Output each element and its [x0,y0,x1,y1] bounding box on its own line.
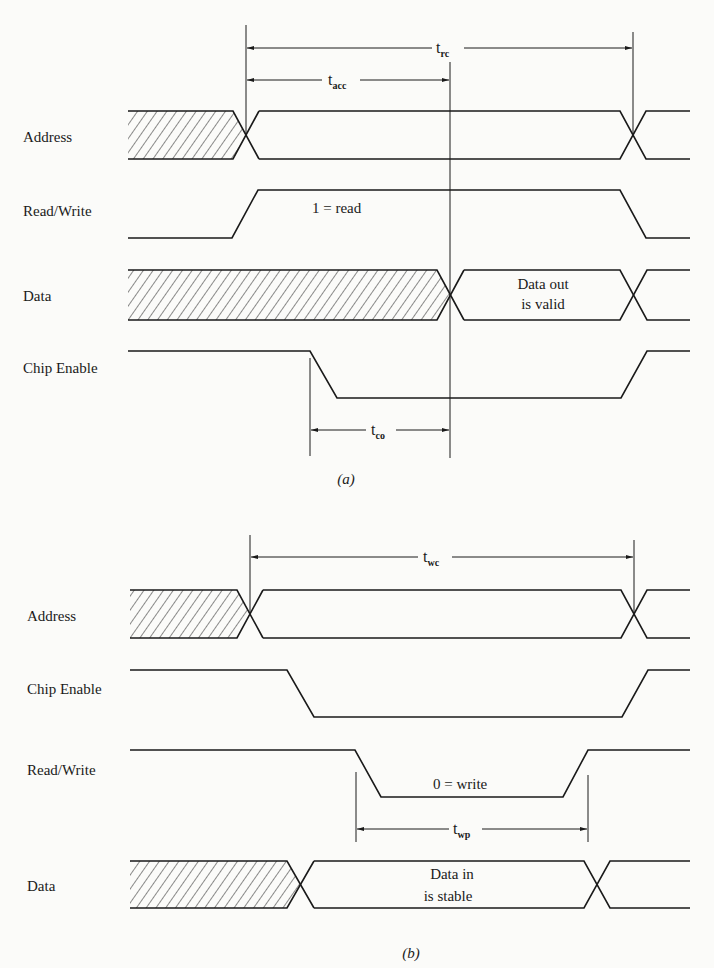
caption-a: (a) [337,471,355,488]
part-b-write-cycle: Address Chip Enable Read/Write Data 0 = … [27,535,690,962]
signal-label-chip-enable-b: Chip Enable [27,681,102,697]
caption-b: (b) [402,945,420,962]
signal-label-read-write-b: Read/Write [27,762,96,778]
annotation-write: 0 = write [433,776,488,792]
annotation-data-out-line2: is valid [521,296,565,312]
annotation-data-in-line2: is stable [424,888,473,904]
waveform-read-write: 1 = read [128,190,690,238]
signal-label-data: Data [23,288,52,304]
waveform-address [128,111,690,159]
signal-label-chip-enable: Chip Enable [23,360,98,376]
timing-label-tacc: tacc [328,71,347,91]
waveform-data-b: Data in is stable [130,861,690,908]
waveform-chip-enable-b [130,670,690,717]
annotation-read: 1 = read [312,200,362,216]
waveform-address-b [130,590,690,638]
timing-label-twc: twc [423,548,440,568]
annotation-data-in-line1: Data in [430,866,474,882]
waveform-chip-enable [128,351,690,398]
waveform-read-write-b: 0 = write [130,750,690,797]
timing-markers-a: trc tacc tco [246,25,633,458]
timing-label-tco: tco [371,421,385,441]
signal-label-address-b: Address [27,608,76,624]
signal-label-address: Address [23,129,72,145]
timing-diagram: Address Read/Write Data Chip Enable 1 = … [0,0,714,968]
signal-label-read-write: Read/Write [23,203,92,219]
timing-markers-b: twc twp [250,535,634,842]
signal-label-data-b: Data [27,878,56,894]
waveform-data: Data out is valid [128,270,690,320]
timing-label-twp: twp [453,820,471,840]
timing-label-trc: trc [436,39,450,59]
part-a-read-cycle: Address Read/Write Data Chip Enable 1 = … [23,25,690,488]
annotation-data-out-line1: Data out [517,276,569,292]
